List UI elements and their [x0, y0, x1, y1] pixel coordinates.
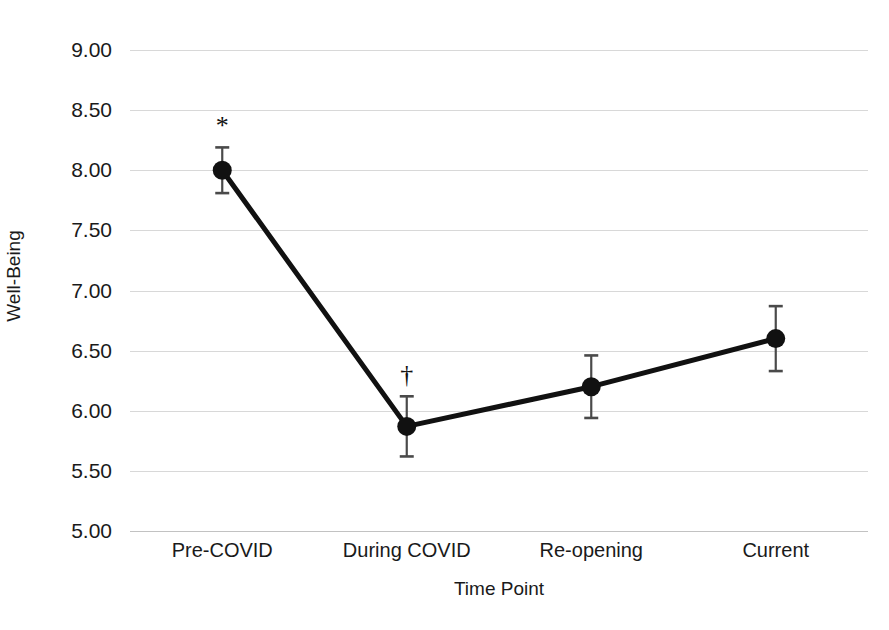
x-axis-tick-label: Re-opening [491, 538, 691, 562]
gridline [130, 531, 868, 532]
data-point-marker [582, 377, 601, 396]
x-axis-tick-label: Pre-COVID [122, 538, 322, 562]
data-point-marker [766, 329, 785, 348]
x-axis-tick-label: During COVID [307, 538, 507, 562]
y-axis-tick-label: 8.50 [2, 99, 112, 120]
x-axis-tick-label: Current [676, 538, 876, 562]
y-axis-tick-label: 8.00 [2, 159, 112, 180]
x-axis-tick-labels: Pre-COVIDDuring COVIDRe-openingCurrent [130, 538, 868, 568]
y-axis-tick-label: 9.00 [2, 39, 112, 60]
data-point-marker [397, 417, 416, 436]
y-axis-tick-label: 6.00 [2, 400, 112, 421]
significance-annotation: * [192, 113, 252, 139]
y-axis-tick-label: 5.50 [2, 460, 112, 481]
data-point-marker [213, 161, 232, 180]
x-axis-title: Time Point [130, 578, 868, 600]
significance-annotation: † [377, 362, 437, 388]
data-line [222, 170, 776, 426]
well-being-line-chart: 9.008.508.007.507.006.506.005.505.00 Wel… [0, 0, 889, 630]
y-axis-title: Well-Being [3, 196, 25, 356]
y-axis-tick-label: 5.00 [2, 520, 112, 541]
